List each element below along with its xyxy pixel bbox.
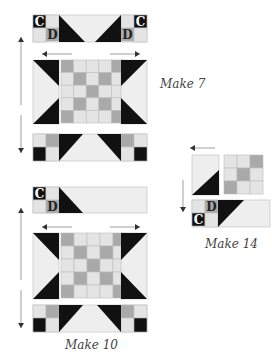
medium-patch bbox=[46, 134, 59, 147]
pressing-arrow-left-head bbox=[190, 145, 195, 151]
pressing-arrow-left-head bbox=[42, 224, 47, 230]
center-grid-b-cell bbox=[61, 233, 74, 246]
light-patch bbox=[33, 200, 46, 213]
pressing-arrow-down-head bbox=[180, 207, 186, 212]
center-grid-a-cell bbox=[74, 98, 87, 111]
center-grid-a-cell bbox=[61, 73, 74, 86]
center-grid-b-cell bbox=[61, 246, 74, 259]
small-grid-cell bbox=[250, 181, 263, 194]
light-patch bbox=[134, 134, 147, 147]
small-grid-cell bbox=[237, 181, 250, 194]
light-patch bbox=[192, 200, 205, 213]
d-label: D bbox=[122, 28, 132, 42]
small-grid-cell bbox=[224, 155, 237, 168]
light-patch bbox=[33, 28, 46, 42]
pressing-arrow-left-head bbox=[42, 51, 47, 57]
center-grid-a-cell bbox=[86, 73, 99, 86]
center-grid-a-cell bbox=[74, 85, 87, 98]
light-patch bbox=[33, 134, 46, 147]
pressing-arrow-down-head bbox=[18, 148, 24, 153]
light-patch bbox=[46, 318, 59, 332]
pressing-arrow-right-head bbox=[135, 224, 140, 230]
center-grid-b-cell bbox=[100, 285, 113, 298]
c-label: C bbox=[136, 15, 146, 29]
light-patch bbox=[134, 28, 147, 42]
center-grid-a-cell bbox=[86, 98, 99, 111]
small-grid-cell bbox=[250, 168, 263, 181]
caption-make-10: Make 10 bbox=[65, 338, 118, 352]
dark-patch bbox=[33, 147, 46, 161]
d-label: D bbox=[206, 200, 216, 214]
pressing-arrow-right-head bbox=[135, 51, 140, 57]
c-label: C bbox=[35, 15, 45, 29]
light-patch bbox=[46, 187, 59, 200]
light-patch bbox=[46, 15, 59, 28]
center-grid-a-cell bbox=[86, 85, 99, 98]
d-label: D bbox=[47, 28, 57, 42]
center-grid-b-cell bbox=[100, 233, 113, 246]
center-grid-b-cell bbox=[74, 272, 87, 285]
center-grid-b-cell bbox=[100, 246, 113, 259]
center-grid-a-cell bbox=[86, 110, 99, 123]
center-grid-a-cell bbox=[61, 85, 74, 98]
center-grid-a-cell bbox=[61, 110, 74, 123]
center-grid-b-cell bbox=[61, 259, 74, 272]
center-grid-a-cell bbox=[99, 85, 112, 98]
small-grid-cell bbox=[237, 168, 250, 181]
caption-make-14: Make 14 bbox=[205, 237, 258, 251]
center-grid-b-cell bbox=[74, 285, 87, 298]
center-grid-b-cell bbox=[87, 259, 100, 272]
quilt-diagram: CDCDCDDC bbox=[0, 0, 272, 353]
light-patch bbox=[121, 318, 134, 332]
light-patch bbox=[121, 15, 134, 28]
small-grid-cell bbox=[250, 155, 263, 168]
medium-patch bbox=[121, 305, 134, 318]
center-grid-b-cell bbox=[74, 259, 87, 272]
d-label: D bbox=[47, 200, 57, 214]
center-grid-a-cell bbox=[61, 60, 74, 73]
center-grid-a-cell bbox=[61, 98, 74, 111]
small-grid-cell bbox=[224, 181, 237, 194]
light-patch bbox=[46, 147, 59, 161]
dark-patch bbox=[134, 147, 147, 161]
center-grid-a-cell bbox=[99, 60, 112, 73]
small-grid-cell bbox=[237, 155, 250, 168]
center-grid-a-cell bbox=[99, 110, 112, 123]
c-label: C bbox=[194, 213, 204, 227]
center-grid-b-cell bbox=[87, 233, 100, 246]
center-grid-b-cell bbox=[74, 246, 87, 259]
center-grid-b-cell bbox=[100, 259, 113, 272]
light-patch bbox=[134, 305, 147, 318]
dark-patch bbox=[134, 318, 147, 332]
medium-patch bbox=[46, 305, 59, 318]
caption-make-7: Make 7 bbox=[160, 77, 205, 91]
center-grid-a-cell bbox=[74, 73, 87, 86]
light-patch bbox=[33, 305, 46, 318]
dark-patch bbox=[33, 318, 46, 332]
center-grid-a-cell bbox=[99, 98, 112, 111]
light-patch bbox=[205, 213, 218, 227]
medium-patch bbox=[121, 134, 134, 147]
small-grid-cell bbox=[224, 168, 237, 181]
pressing-arrow-up-head bbox=[18, 37, 24, 42]
pressing-arrow-up-head bbox=[18, 208, 24, 213]
center-grid-b-cell bbox=[61, 285, 74, 298]
center-grid-b-cell bbox=[87, 272, 100, 285]
center-grid-b-cell bbox=[87, 246, 100, 259]
center-grid-a-cell bbox=[74, 110, 87, 123]
pressing-arrow-down-head bbox=[18, 323, 24, 328]
center-grid-a-cell bbox=[99, 73, 112, 86]
center-grid-b-cell bbox=[100, 272, 113, 285]
center-grid-b-cell bbox=[74, 233, 87, 246]
center-grid-b-cell bbox=[61, 272, 74, 285]
light-patch bbox=[121, 147, 134, 161]
center-grid-b-cell bbox=[87, 285, 100, 298]
center-grid-a-cell bbox=[74, 60, 87, 73]
c-label: C bbox=[35, 187, 45, 201]
center-grid-a-cell bbox=[86, 60, 99, 73]
